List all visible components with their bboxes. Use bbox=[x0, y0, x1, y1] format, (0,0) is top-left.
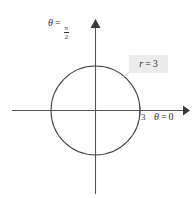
r-value: 3 bbox=[153, 59, 158, 69]
equals-symbol-horizontal: = bbox=[161, 111, 167, 122]
equals-symbol-vertical: = bbox=[55, 17, 61, 28]
pi-over-two-fraction: π2 bbox=[64, 25, 70, 41]
x-axis-tick-label-3: 3 bbox=[141, 113, 146, 122]
horizontal-axis-arrowhead bbox=[183, 106, 190, 116]
vertical-axis-arrowhead bbox=[91, 19, 101, 28]
vertical-axis-label: θ=π2 bbox=[48, 18, 70, 41]
fraction-numerator-pi: π bbox=[64, 25, 70, 32]
theta-symbol-vertical: θ bbox=[48, 17, 53, 28]
equals-symbol-curve: = bbox=[145, 59, 151, 69]
polar-circle-figure: θ=π2 θ=0 3 r=3 bbox=[0, 0, 194, 198]
curve-equation-callout: r=3 bbox=[129, 55, 168, 73]
theta-zero-value: 0 bbox=[169, 111, 174, 122]
fraction-denominator-two: 2 bbox=[64, 34, 70, 41]
horizontal-axis-label: θ=0 bbox=[154, 112, 174, 122]
theta-symbol-horizontal: θ bbox=[154, 111, 159, 122]
plot-canvas bbox=[0, 0, 194, 198]
r-symbol: r bbox=[139, 59, 143, 69]
